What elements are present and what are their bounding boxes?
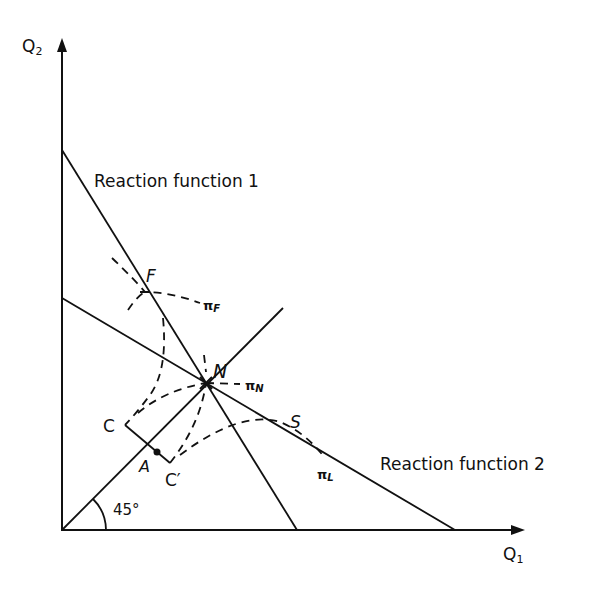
point-s-label: S bbox=[290, 412, 301, 432]
isoprofit-curve-pi-n bbox=[206, 383, 240, 384]
isoprofit-curve-pi-f bbox=[112, 258, 200, 303]
q2-axis-arrow-icon bbox=[57, 38, 67, 52]
reaction-function-2-label: Reaction function 2 bbox=[380, 454, 545, 474]
dashed-path-c-prime-to-n bbox=[170, 383, 206, 463]
angle-arc bbox=[93, 499, 106, 530]
pi-l-label: πL bbox=[317, 467, 334, 483]
point-a-marker bbox=[154, 449, 161, 456]
q1-axis-label: Q1 bbox=[503, 544, 523, 566]
point-c-label: C bbox=[103, 416, 115, 436]
reaction-function-diagram: Q2 Q1 Reaction function 1 Reaction funct… bbox=[0, 0, 593, 594]
isoprofit-curve-pi-f-left bbox=[128, 292, 145, 310]
point-c-prime-label: C′ bbox=[165, 470, 181, 490]
dashed-path-f-to-c bbox=[125, 318, 164, 425]
reaction-function-1-label: Reaction function 1 bbox=[94, 171, 259, 191]
point-n-label: N bbox=[213, 360, 227, 382]
pi-f-label: πF bbox=[203, 298, 220, 314]
dashed-path-c-to-n bbox=[138, 383, 206, 413]
pi-n-label: πN bbox=[245, 378, 264, 394]
isoprofit-curve-pi-n-top bbox=[204, 355, 206, 372]
point-f-label: F bbox=[146, 266, 156, 286]
angle-label: 45° bbox=[113, 501, 140, 519]
point-a-label: A bbox=[138, 457, 150, 476]
q1-axis-arrow-icon bbox=[511, 525, 525, 535]
q2-axis-label: Q2 bbox=[22, 36, 42, 58]
isoprofit-curve-pi-l bbox=[180, 419, 325, 458]
forty-five-degree-line bbox=[62, 308, 283, 530]
